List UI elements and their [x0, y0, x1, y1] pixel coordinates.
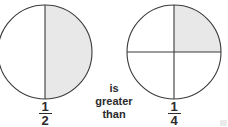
relation-line-3: than [84, 108, 144, 121]
relation-text: is greater than [84, 82, 144, 121]
corner-scan-artifact [220, 120, 227, 126]
left-fraction-numerator: 1 [25, 101, 65, 113]
left-fraction-label: 1 2 [25, 101, 65, 126]
right-fraction-denominator: 4 [154, 114, 194, 126]
left-circle-model [0, 5, 92, 99]
right-fraction-label: 1 4 [154, 101, 194, 126]
relation-line-1: is [84, 82, 144, 95]
right-fraction-numerator: 1 [154, 101, 194, 113]
left-fraction-denominator: 2 [25, 114, 65, 126]
right-shaded-quadrant [174, 5, 221, 52]
fraction-comparison-figure: 1 2 is greater than 1 4 [0, 0, 228, 127]
relation-line-2: greater [84, 95, 144, 108]
